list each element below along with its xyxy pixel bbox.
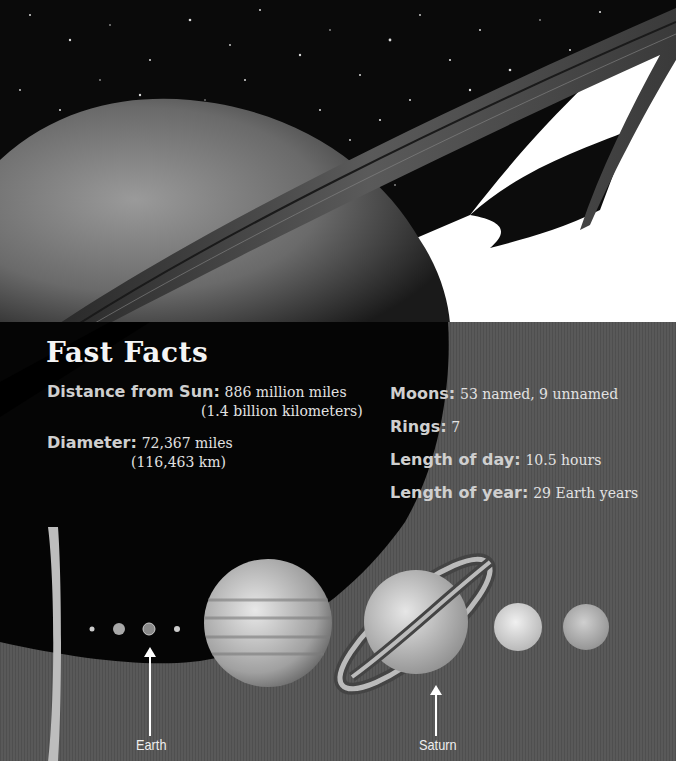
fast-facts-panel: Fast Facts Distance from Sun: 886 millio… (0, 322, 676, 761)
fact-diameter: Diameter: 72,367 miles (116,463 km) (47, 433, 233, 472)
saturn-rings-illustration (0, 0, 676, 323)
saturn-hero-image (0, 0, 676, 323)
fact-length-of-day: Length of day: 10.5 hours (390, 450, 601, 470)
fact-rings: Rings: 7 (390, 417, 460, 437)
earth-arrow-icon (149, 656, 151, 736)
fact-label: Rings: (390, 417, 447, 436)
fact-value-secondary: (116,463 km) (47, 453, 233, 472)
fact-value: 7 (451, 419, 460, 435)
saturn-caption: Saturn (419, 736, 457, 753)
fact-value: 29 Earth years (533, 485, 638, 501)
fact-label: Diameter: (47, 433, 137, 452)
saturn-arrow-icon (435, 694, 437, 736)
fact-value: 53 named, 9 unnamed (460, 386, 618, 402)
earth-caption: Earth (136, 736, 166, 753)
fact-length-of-year: Length of year: 29 Earth years (390, 483, 638, 503)
fact-value: 10.5 hours (525, 452, 601, 468)
fact-label: Distance from Sun: (47, 382, 220, 401)
fact-value-secondary: (1.4 billion kilometers) (47, 402, 363, 421)
fact-moons: Moons: 53 named, 9 unnamed (390, 384, 618, 404)
fact-label: Length of day: (390, 450, 521, 469)
fact-value: 886 million miles (225, 384, 347, 400)
fast-facts-title: Fast Facts (46, 336, 208, 369)
fact-value: 72,367 miles (142, 435, 233, 451)
fact-label: Length of year: (390, 483, 528, 502)
fact-label: Moons: (390, 384, 455, 403)
fact-distance-from-sun: Distance from Sun: 886 million miles (1.… (47, 382, 363, 421)
